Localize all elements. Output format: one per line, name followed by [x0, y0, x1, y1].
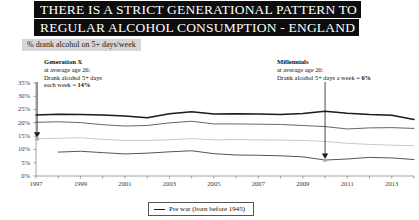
series-line-generation-x: [36, 138, 414, 146]
y-axis-tick-10: 10%: [6, 145, 30, 152]
series-line-millennials: [58, 151, 414, 160]
series-line-baby-boomers: [36, 121, 414, 129]
legend-label-pre-war: Pre war (born before 1945): [169, 205, 245, 213]
y-axis-tick-30: 30%: [6, 92, 30, 99]
chart-page: THERE IS A STRICT GENERATIONAL PATTERN T…: [0, 0, 419, 220]
x-axis-tick-1997: 1997: [19, 180, 53, 187]
y-axis-tick-0: 0%: [6, 172, 30, 179]
generation-x-target-marker: [35, 137, 39, 141]
line-chart-plot: [0, 0, 419, 220]
x-axis-tick-2003: 2003: [152, 180, 186, 187]
legend-swatch-pre-war: [154, 209, 165, 210]
y-axis-tick-15: 15%: [6, 132, 30, 139]
series-line-pre-war-born-before-1945: [36, 111, 414, 119]
y-axis-tick-35: 35%: [6, 79, 30, 86]
x-axis-tick-1999: 1999: [63, 180, 97, 187]
y-axis-tick-25: 25%: [6, 105, 30, 112]
x-axis-tick-2011: 2011: [330, 180, 364, 187]
chart-legend: Pre war (born before 1945): [148, 202, 254, 216]
x-axis-tick-2001: 2001: [108, 180, 142, 187]
millennials-target-marker: [323, 158, 327, 162]
chart-series: [36, 111, 414, 160]
chart-axes: [34, 82, 415, 179]
y-axis-tick-5: 5%: [6, 159, 30, 166]
x-axis-tick-2005: 2005: [197, 180, 231, 187]
x-axis-tick-2009: 2009: [286, 180, 320, 187]
x-axis-tick-2013: 2013: [375, 180, 409, 187]
x-axis-tick-2007: 2007: [241, 180, 275, 187]
y-axis-tick-20: 20%: [6, 119, 30, 126]
